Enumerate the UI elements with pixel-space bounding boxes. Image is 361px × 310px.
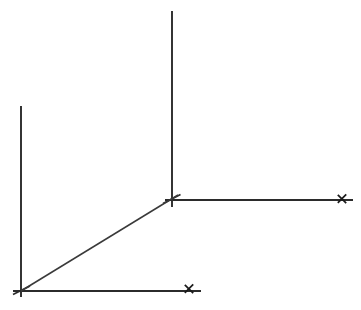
figure-canvas: x x: [0, 0, 361, 310]
paper-background: [0, 0, 361, 310]
axes-diagram: [0, 0, 361, 310]
